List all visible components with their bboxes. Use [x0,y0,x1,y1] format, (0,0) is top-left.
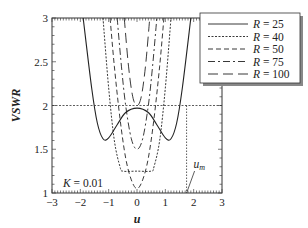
y-axis-label: VSWR [9,89,23,122]
legend: R = 25R = 40R = 50R = 75R = 100 [200,13,303,86]
x-tick-label: 2 [191,196,197,208]
series-r50 [110,18,164,189]
y-tick-label: 1.5 [34,143,48,155]
x-tick-label: 3 [219,196,225,208]
y-tick-label: 2.5 [34,56,48,68]
plot-axes: −3−2−1012311.522.53uVSWR [9,12,225,226]
y-tick-label: 1 [43,187,49,199]
x-tick-label: 1 [163,196,169,208]
legend-entry: R = 50 [252,43,284,55]
series-r100 [124,18,150,106]
series-r25 [83,18,191,140]
vswr-chart: −3−2−1012311.522.53uVSWR umK = 0.01 R = … [0,0,308,228]
plot-curves [83,18,191,189]
x-tick-label: 0 [134,196,140,208]
series-r40 [103,18,171,171]
x-tick-label: −2 [74,196,86,208]
y-tick-label: 3 [43,12,49,24]
um-label: um [194,158,206,172]
legend-entry: R = 25 [252,18,284,30]
series-r75 [117,18,157,149]
legend-entry: R = 100 [252,68,290,80]
legend-entry: R = 75 [252,56,284,68]
x-tick-label: −1 [103,196,115,208]
k-parameter-label: K = 0.01 [62,177,103,189]
y-tick-label: 2 [43,100,49,112]
annotations: umK = 0.01 [52,106,222,194]
legend-entry: R = 40 [252,31,284,43]
x-axis-label: u [134,212,141,226]
